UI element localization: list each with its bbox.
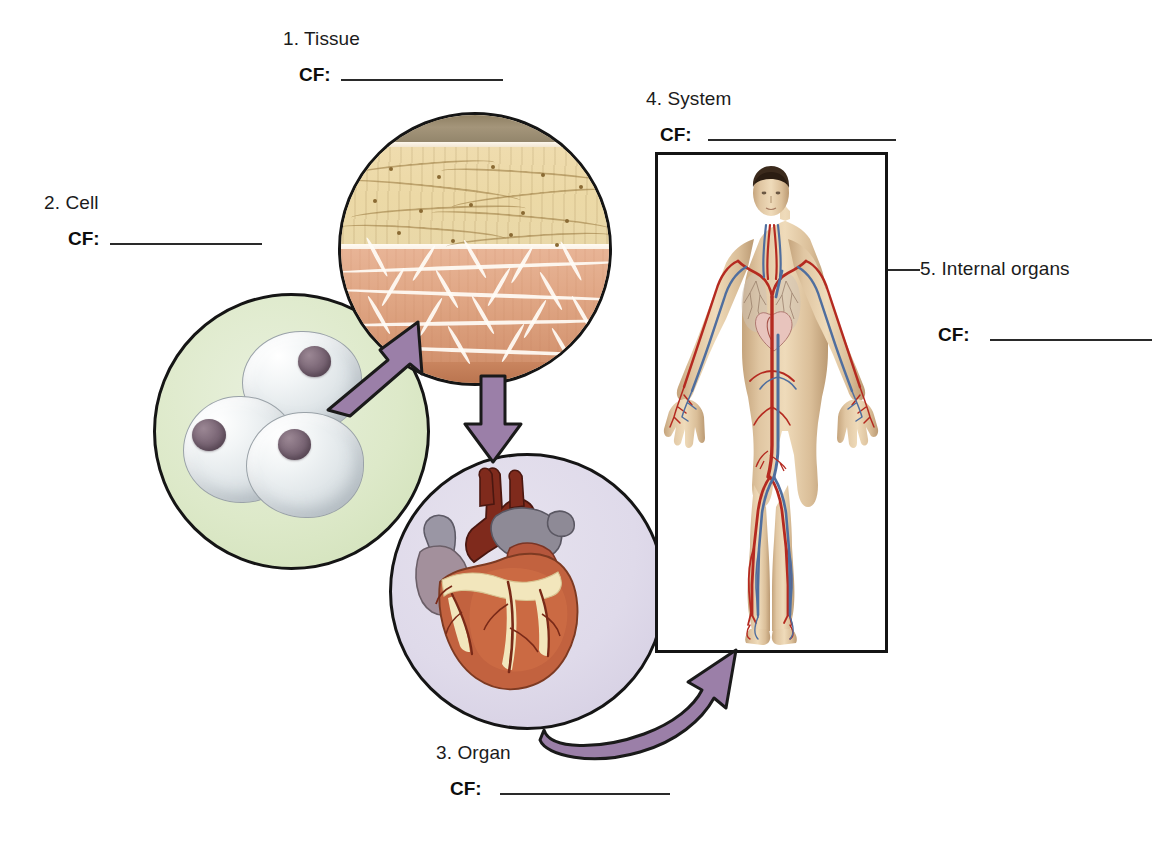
arrow-organ-to-system bbox=[540, 624, 760, 754]
cell-nucleus-left bbox=[192, 419, 226, 451]
tissue-cell-dot bbox=[373, 199, 377, 203]
tissue-cell-dot bbox=[419, 209, 423, 213]
body-svg bbox=[658, 155, 884, 649]
cf-answer-line-cell[interactable] bbox=[110, 243, 262, 245]
body-eye-left bbox=[762, 192, 767, 195]
tissue-cell-dot bbox=[509, 233, 513, 237]
cf-tag-cell: CF: bbox=[68, 228, 100, 250]
tissue-layer-epidermis bbox=[338, 115, 612, 142]
arrow-tissue-to-organ bbox=[455, 372, 545, 468]
circulatory-system-illustration bbox=[655, 152, 888, 653]
heart-pulmonary-trunk bbox=[548, 511, 575, 536]
label-title-tissue: 1. Tissue bbox=[283, 28, 503, 50]
tissue-cell-dot bbox=[437, 175, 441, 179]
tissue-cell-dot bbox=[451, 239, 455, 243]
diagram-canvas: 1. Tissue CF: 2. Cell CF: 3. Organ CF: 4… bbox=[0, 0, 1165, 841]
label-title-internal-organs: 5. Internal organs bbox=[920, 258, 1152, 280]
body-hand-left bbox=[664, 399, 705, 448]
cf-row-tissue: CF: bbox=[299, 64, 503, 86]
tissue-cell-dot bbox=[389, 167, 393, 171]
cf-answer-line-internal-organs[interactable] bbox=[990, 339, 1152, 341]
label-block-tissue: 1. Tissue CF: bbox=[283, 28, 503, 86]
tissue-cell-dot bbox=[397, 231, 401, 235]
tissue-cell-dot bbox=[541, 173, 545, 177]
cf-answer-line-organ[interactable] bbox=[500, 793, 670, 795]
tissue-cell-dot bbox=[521, 211, 525, 215]
heart-aortic-branch-right bbox=[509, 470, 524, 508]
tissue-cell-dot bbox=[565, 219, 569, 223]
label-title-system: 4. System bbox=[646, 88, 896, 110]
body-eye-right bbox=[776, 192, 781, 195]
arrow-cell-to-tissue bbox=[322, 288, 462, 428]
cf-tag-system: CF: bbox=[660, 124, 692, 146]
label-title-cell: 2. Cell bbox=[44, 192, 262, 214]
tissue-cell-dot bbox=[555, 243, 559, 247]
tissue-cell-dot bbox=[579, 185, 583, 189]
cf-row-system: CF: bbox=[660, 124, 896, 146]
cf-tag-tissue: CF: bbox=[299, 64, 331, 86]
heart-aortic-branch-left bbox=[479, 468, 494, 506]
label-block-cell: 2. Cell CF: bbox=[44, 192, 262, 250]
tissue-cell-dot bbox=[491, 165, 495, 169]
cell-nucleus-bottom bbox=[278, 429, 311, 460]
cf-row-organ: CF: bbox=[450, 778, 670, 800]
cf-tag-organ: CF: bbox=[450, 778, 482, 800]
tissue-cell-dot bbox=[469, 203, 473, 207]
cf-row-cell: CF: bbox=[68, 228, 262, 250]
label-block-internal-organs: 5. Internal organs CF: bbox=[920, 258, 1152, 346]
label-block-system: 4. System CF: bbox=[646, 88, 896, 146]
cf-row-internal-organs: CF: bbox=[938, 324, 1152, 346]
cf-answer-line-system[interactable] bbox=[708, 139, 896, 141]
cf-answer-line-tissue[interactable] bbox=[341, 79, 503, 81]
cf-tag-internal-organs: CF: bbox=[938, 324, 970, 346]
